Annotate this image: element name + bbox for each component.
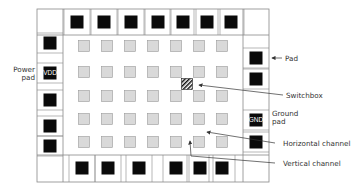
logic-block bbox=[194, 114, 205, 125]
annotations: Power pad Pad Switchbox Ground pad Horiz… bbox=[13, 54, 350, 168]
logic-block bbox=[102, 67, 113, 78]
switchbox bbox=[182, 79, 193, 90]
io-pad-left bbox=[44, 37, 57, 50]
io-pad-top bbox=[225, 16, 238, 29]
logic-block bbox=[148, 114, 159, 125]
ground-pad-label-2: pad bbox=[272, 117, 286, 126]
io-pad-bottom bbox=[170, 162, 183, 175]
io-pad-top bbox=[71, 16, 84, 29]
logic-block bbox=[148, 41, 159, 52]
logic-block bbox=[125, 67, 136, 78]
switchbox-arrow bbox=[199, 85, 283, 95]
power-pad-label-2: pad bbox=[21, 73, 35, 82]
io-pad-bottom bbox=[216, 162, 229, 175]
logic-block bbox=[102, 114, 113, 125]
logic-block bbox=[125, 41, 136, 52]
logic-block bbox=[217, 114, 228, 125]
io-pad-bottom bbox=[102, 162, 115, 175]
logic-block bbox=[194, 67, 205, 78]
logic-block bbox=[125, 114, 136, 125]
logic-block bbox=[79, 91, 90, 102]
logic-block bbox=[194, 137, 205, 148]
io-pad-right bbox=[250, 73, 263, 86]
io-pad-top bbox=[201, 16, 214, 29]
io-pad-right bbox=[250, 52, 263, 65]
gnd-label: GND bbox=[249, 116, 264, 123]
vdd-label: VDD bbox=[43, 69, 57, 76]
io-pad-top bbox=[98, 16, 111, 29]
logic-block bbox=[217, 41, 228, 52]
logic-block bbox=[102, 137, 113, 148]
logic-block bbox=[79, 41, 90, 52]
fpga-floorplan-diagram: VDDGND Power pad Pad Switchbox Ground pa… bbox=[0, 0, 355, 194]
logic-block bbox=[148, 137, 159, 148]
io-pad-right bbox=[250, 136, 263, 149]
logic-block bbox=[171, 114, 182, 125]
logic-block bbox=[217, 67, 228, 78]
vertical-channel-label: Vertical channel bbox=[283, 159, 341, 168]
horizontal-channel-label: Horizontal channel bbox=[283, 139, 350, 148]
logic-block bbox=[171, 137, 182, 148]
logic-block bbox=[102, 41, 113, 52]
logic-block bbox=[125, 91, 136, 102]
io-pad-bottom bbox=[133, 162, 146, 175]
logic-block bbox=[79, 137, 90, 148]
io-pad-left bbox=[44, 140, 57, 153]
logic-block bbox=[171, 91, 182, 102]
logic-block bbox=[102, 91, 113, 102]
logic-block bbox=[148, 67, 159, 78]
switchbox-label: Switchbox bbox=[286, 91, 324, 100]
io-pad-left bbox=[44, 120, 57, 133]
logic-block-grid bbox=[79, 41, 228, 148]
io-pad-top bbox=[177, 16, 190, 29]
logic-block bbox=[217, 91, 228, 102]
logic-block bbox=[125, 137, 136, 148]
io-pad-bottom bbox=[194, 162, 207, 175]
logic-block bbox=[79, 114, 90, 125]
logic-block bbox=[194, 91, 205, 102]
logic-block bbox=[217, 137, 228, 148]
io-pad-left bbox=[44, 94, 57, 107]
io-pad-top bbox=[125, 16, 138, 29]
io-pad-top bbox=[152, 16, 165, 29]
pad-label: Pad bbox=[285, 54, 298, 63]
logic-block bbox=[171, 67, 182, 78]
logic-block bbox=[171, 41, 182, 52]
io-pad-bottom bbox=[76, 162, 89, 175]
logic-block bbox=[79, 67, 90, 78]
logic-block bbox=[148, 91, 159, 102]
logic-block bbox=[194, 41, 205, 52]
